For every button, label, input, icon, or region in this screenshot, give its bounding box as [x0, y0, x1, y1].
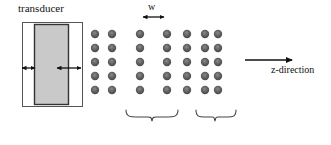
scatterer-dot	[108, 58, 116, 66]
scatterer-dot	[214, 72, 222, 80]
scatterer-dot	[214, 86, 222, 94]
scatterer-dot	[91, 30, 99, 38]
scatterer-dot-grid	[91, 30, 222, 94]
scatterer-dot	[91, 86, 99, 94]
scatterer-dot	[108, 86, 116, 94]
scatterer-dot	[91, 44, 99, 52]
brace-right	[196, 110, 236, 121]
scatterer-dot	[201, 86, 209, 94]
scatterer-dot	[108, 30, 116, 38]
scatterer-dot	[201, 58, 209, 66]
scatterer-dot	[183, 72, 191, 80]
ultrasound-transducer-diagram: transducer z-direction w	[0, 0, 331, 145]
scatterer-dot	[183, 58, 191, 66]
scatterer-dot	[108, 72, 116, 80]
scatterer-dot	[163, 72, 171, 80]
scatterer-dot	[136, 86, 144, 94]
scatterer-dot	[163, 58, 171, 66]
scatterer-dot	[136, 30, 144, 38]
scatterer-dot	[163, 86, 171, 94]
scatterer-dot	[183, 30, 191, 38]
scatterer-dot	[183, 44, 191, 52]
scatterer-dot	[163, 44, 171, 52]
scatterer-dot	[214, 44, 222, 52]
scatterer-dot	[163, 30, 171, 38]
scatterer-dot	[136, 72, 144, 80]
scatterer-dot	[136, 44, 144, 52]
scatterer-dot	[201, 30, 209, 38]
scatterer-dot	[91, 58, 99, 66]
width-symbol-label: w	[148, 2, 155, 12]
brace-left	[126, 110, 178, 121]
transducer-label: transducer	[18, 3, 64, 14]
scatterer-dot	[214, 58, 222, 66]
z-direction-label: z-direction	[271, 65, 314, 75]
scatterer-dot	[201, 44, 209, 52]
scatterer-dot	[214, 30, 222, 38]
transducer-element	[35, 25, 69, 105]
scatterer-dot	[136, 58, 144, 66]
scatterer-dot	[201, 72, 209, 80]
scatterer-dot	[91, 72, 99, 80]
scatterer-dot	[183, 86, 191, 94]
scatterer-dot	[108, 44, 116, 52]
